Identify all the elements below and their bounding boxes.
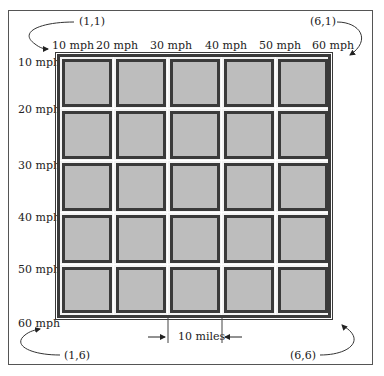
annotation-arrows	[0, 0, 384, 376]
arrow-top-left	[29, 22, 74, 49]
arrow-top-right	[337, 22, 362, 55]
arrow-bottom-left	[21, 329, 60, 355]
arrow-bottom-right	[320, 325, 354, 355]
